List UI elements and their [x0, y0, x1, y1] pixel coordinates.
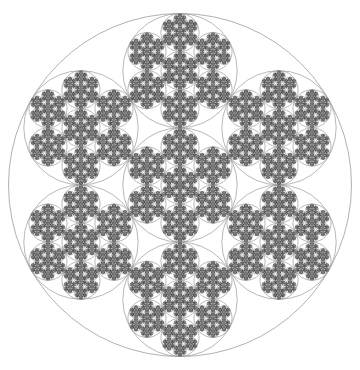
fractal-figure — [0, 0, 360, 370]
fractal-svg — [0, 0, 360, 370]
fractal-root — [9, 13, 352, 356]
